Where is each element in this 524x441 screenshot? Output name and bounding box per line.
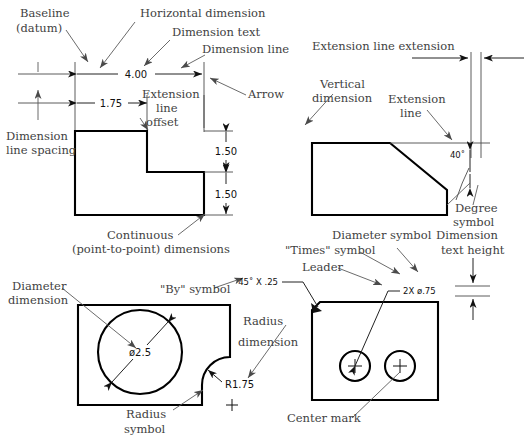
diameter-dim-leader-lower (112, 359, 133, 382)
label-times-symbol: "Times" symbol (285, 243, 376, 257)
label-radius-dimension-1: Radius (243, 314, 283, 328)
label-dim-text-height-1: Dimension (436, 228, 499, 242)
label-arrow: Arrow (247, 87, 284, 101)
label-dim-line-spacing-1: Dimension (6, 129, 69, 143)
label-diameter-dimension-1: Diameter (12, 279, 67, 293)
drawing-sheet: 4.00 1.75 1.50 1.50 (0, 0, 524, 441)
label-horizontal-dimension: Horizontal dimension (140, 6, 266, 20)
annotation-labels: Baseline (datum) Horizontal dimension Di… (6, 6, 505, 436)
view-lower-right-plate: 2X ø.75 45˚ X .25 (238, 258, 490, 400)
leader-arrow (210, 78, 246, 95)
label-degree-symbol-2: symbol (453, 215, 495, 229)
leader-continuous-dimensions (178, 214, 205, 235)
label-dimension-text: Dimension text (172, 25, 260, 39)
radius-center-mark (226, 399, 238, 411)
label-extension-line-extension: Extension line extension (312, 39, 455, 53)
label-vertical-dimension-1: Vertical (319, 77, 365, 91)
label-center-mark: Center mark (287, 411, 362, 425)
leader-dimension-text (144, 40, 170, 66)
label-continuous-2: (point-to-point) dimensions (72, 242, 230, 256)
label-radius-symbol-2: symbol (124, 422, 166, 436)
dimension-text-1-50-upper: 1.50 (215, 146, 237, 157)
leader-baseline (66, 30, 88, 62)
dimension-text-40-degrees: 40˚ (450, 150, 465, 160)
label-extension-line-2: line (400, 106, 422, 120)
leader-leader-label (338, 268, 382, 285)
dimension-text-4-00: 4.00 (125, 69, 147, 80)
label-baseline: Baseline (20, 6, 70, 20)
label-dim-line-spacing-2: line spacing (6, 143, 77, 157)
two-hole-plate-outline (312, 302, 438, 400)
angle-arc-leader (456, 168, 469, 200)
label-diameter-dimension-2: dimension (8, 293, 69, 307)
label-leader: Leader (302, 260, 343, 274)
dimension-text-1-50-lower: 1.50 (215, 189, 237, 200)
label-diameter-symbol: Diameter symbol (332, 228, 432, 242)
leader-radius-symbol (173, 390, 203, 410)
l-block-outline (75, 131, 204, 215)
chamfer-block-outline (312, 143, 447, 215)
label-degree-symbol-1: Degree (455, 201, 498, 215)
label-vertical-dimension-2: dimension (312, 91, 373, 105)
dimension-text-diameter-2-5: ø2.5 (129, 347, 151, 358)
leader-horizontal-dimension (100, 22, 135, 68)
label-radius-symbol-1: Radius (126, 407, 166, 421)
dimension-text-1-75: 1.75 (100, 98, 122, 109)
dimension-text-chamfer: 45˚ X .25 (238, 277, 278, 287)
radius-dim-line (208, 370, 222, 382)
label-by-symbol: "By" symbol (160, 282, 231, 296)
diameter-dim-leader-upper (147, 322, 168, 345)
label-radius-dimension-2: dimension (238, 335, 299, 349)
label-dimension-line: Dimension line (202, 42, 289, 56)
leader-diameter-symbol (397, 248, 418, 272)
center-mark-right (393, 359, 407, 373)
dimension-text-hole-callout: 2X ø.75 (403, 286, 436, 296)
label-extension-offset-2: line (156, 101, 178, 115)
leader-radius-dimension (248, 325, 286, 378)
annotation-leaders-lower-right (338, 248, 418, 418)
dimension-text-radius-1-75: R1.75 (225, 379, 254, 390)
view-lower-left-plate: ø2.5 R1.75 (78, 305, 254, 411)
label-extension-offset-3: offset (146, 115, 179, 129)
leader-dimension-line (181, 55, 205, 68)
label-extension-offset-1: Extension (142, 87, 200, 101)
label-extension-line-1: Extension (388, 92, 446, 106)
chamfer-note-leader (282, 282, 318, 307)
label-dim-text-height-2: text height (441, 243, 505, 257)
label-continuous-1: Continuous (107, 228, 174, 242)
leader-extension-line (427, 110, 452, 140)
technical-drawing-canvas: 4.00 1.75 1.50 1.50 (0, 0, 524, 441)
label-datum: (datum) (16, 21, 62, 35)
